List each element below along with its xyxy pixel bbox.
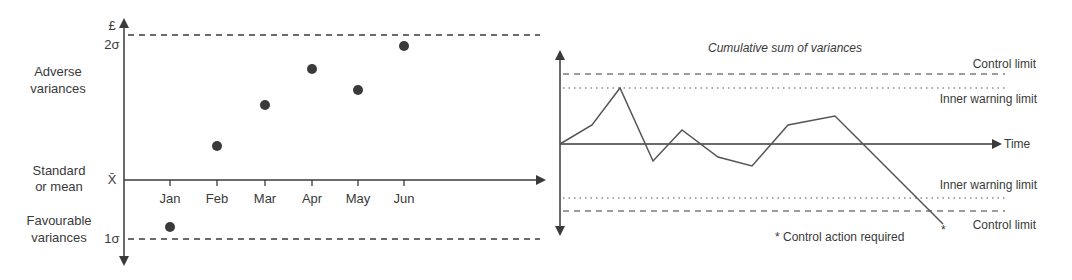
lower-control-label: Control limit <box>973 218 1037 232</box>
control-action-footnote: * Control action required <box>775 230 904 244</box>
point-apr <box>307 64 317 74</box>
upper-warning-label: Inner warning limit <box>940 92 1038 106</box>
point-feb <box>212 141 222 151</box>
month-label-jun: Jun <box>394 191 415 206</box>
adverse-label-line2: variances <box>30 81 86 96</box>
month-label-mar: Mar <box>254 191 277 206</box>
upper-sigma-label: 2σ <box>104 37 119 52</box>
control-action-marker: * <box>941 223 946 237</box>
cusum-line <box>560 88 943 224</box>
lower-sigma-label: 1σ <box>104 231 119 246</box>
point-mar <box>260 100 270 110</box>
month-label-jan: Jan <box>160 191 181 206</box>
month-label-feb: Feb <box>206 191 228 206</box>
point-jan <box>165 222 175 232</box>
variance-control-diagram: £ 2σ X̄ 1σ Adverse variances Standard or… <box>0 0 1072 280</box>
adverse-label-line1: Adverse <box>34 64 82 79</box>
point-may <box>353 85 363 95</box>
month-label-may: May <box>346 191 371 206</box>
upper-control-label: Control limit <box>973 57 1037 71</box>
point-jun <box>399 41 409 51</box>
standard-label-line1: Standard <box>33 163 86 178</box>
standard-label-line2: or mean <box>35 179 83 194</box>
favourable-label-line2: variances <box>31 230 87 245</box>
lower-warning-label: Inner warning limit <box>940 178 1038 192</box>
variance-points <box>165 41 409 232</box>
favourable-label-line1: Favourable <box>26 213 91 228</box>
month-label-apr: Apr <box>302 191 323 206</box>
time-label: Time <box>1004 137 1031 151</box>
cusum-title: Cumulative sum of variances <box>708 41 862 55</box>
variance-scatter-chart: £ 2σ X̄ 1σ Adverse variances Standard or… <box>26 18 544 264</box>
mean-label: X̄ <box>108 172 117 187</box>
cusum-chart: Cumulative sum of variances Time * Contr… <box>560 41 1038 244</box>
month-ticks <box>170 180 404 186</box>
currency-label: £ <box>108 18 116 33</box>
